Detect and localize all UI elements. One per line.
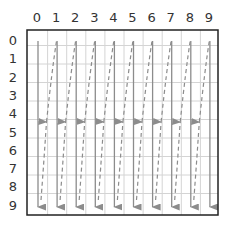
row-label: 2 [9, 70, 17, 85]
row-labels: 0123456789 [9, 33, 17, 213]
dashed-up-arrow-lower [137, 122, 143, 200]
column-label: 1 [52, 10, 60, 25]
row-label: 8 [9, 179, 17, 194]
column-label: 0 [33, 10, 41, 25]
column-label: 9 [205, 10, 213, 25]
column-label: 6 [147, 10, 155, 25]
dashed-up-arrow-lower [60, 122, 66, 200]
row-label: 9 [9, 198, 17, 213]
dashed-up-arrow-lower [79, 122, 85, 200]
dashed-up-arrow-lower [117, 122, 123, 200]
row-label: 1 [9, 51, 17, 66]
row-label: 4 [9, 106, 17, 121]
row-label: 6 [9, 143, 17, 158]
column-labels: 0123456789 [33, 10, 213, 25]
column-label: 5 [128, 10, 136, 25]
column-label: 2 [71, 10, 79, 25]
column-label: 3 [90, 10, 98, 25]
row-label: 5 [9, 125, 17, 140]
dashed-up-arrow-lower [156, 122, 162, 200]
column-label: 7 [167, 10, 175, 25]
row-label: 7 [9, 161, 17, 176]
row-label: 0 [9, 33, 17, 48]
dashed-up-arrow-lower [41, 122, 47, 200]
dashed-up-arrow-lower [175, 122, 181, 200]
column-label: 4 [109, 10, 117, 25]
scan-order-diagram: 0123456789 0123456789 [0, 0, 228, 226]
row-label: 3 [9, 88, 17, 103]
dashed-up-arrow-lower [194, 122, 200, 200]
dashed-up-arrow-lower [98, 122, 104, 200]
column-label: 8 [186, 10, 194, 25]
